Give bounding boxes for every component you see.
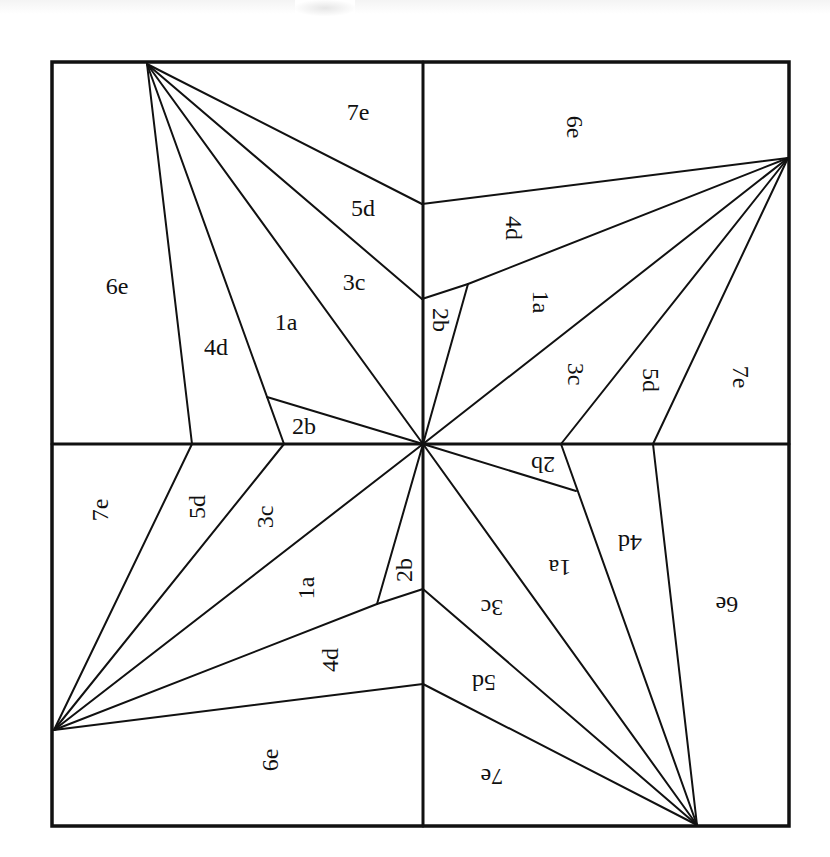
bottom-left-3c-1a-seam xyxy=(54,444,423,730)
piece-label-2b: 2b xyxy=(391,558,417,582)
piece-label-7e: 7e xyxy=(347,99,370,125)
piece-label-3c: 3c xyxy=(481,595,504,621)
piece-label-2b: 2b xyxy=(428,308,454,332)
top-right-6e-4d-seam xyxy=(422,158,788,204)
piece-label-1a: 1a xyxy=(275,309,298,335)
piece-label-3c: 3c xyxy=(563,363,589,386)
piece-label-6e: 6e xyxy=(106,273,129,299)
piece-label-5d: 5d xyxy=(351,195,375,221)
top-left-5d-3c-seam xyxy=(147,64,422,299)
bottom-right-1a-4d-seam xyxy=(561,444,697,825)
piece-label-7e: 7e xyxy=(87,499,113,522)
bottom-left-5d-3c-seam xyxy=(54,444,284,730)
quilt-block-diagram: 7e5d3c1a4d6e2b6e4d1a2b3c5d7e7e5d3c1a2b4d… xyxy=(0,0,830,857)
piece-label-6e: 6e xyxy=(257,749,283,772)
block-midlines xyxy=(52,62,789,826)
bottom-right-3c-1a-seam xyxy=(423,444,697,825)
top-left-4d-6e-seam xyxy=(147,64,192,444)
labels-top-right: 6e4d1a2b3c5d7e xyxy=(428,116,754,392)
top-right-4d-2b-seam xyxy=(422,284,468,299)
top-left-1a-4d-seam xyxy=(147,64,284,444)
piece-label-6e: 6e xyxy=(562,116,588,139)
top-right-1a-3c-seam xyxy=(423,158,788,444)
piece-label-3c: 3c xyxy=(343,269,366,295)
piece-label-1a: 1a xyxy=(293,576,319,599)
top-left-3c-1a-seam xyxy=(147,64,423,444)
bottom-right-7e-5d-seam xyxy=(423,684,697,825)
quadrant-top-right xyxy=(422,158,788,444)
piece-label-4d: 4d xyxy=(204,334,228,360)
labels-bottom-right: 2b4d1a3c6e5d7e xyxy=(472,452,738,790)
quadrant-bottom-left xyxy=(54,444,423,730)
quadrant-bottom-right xyxy=(423,444,697,825)
piece-label-5d: 5d xyxy=(638,368,664,392)
piece-label-2b: 2b xyxy=(531,452,555,478)
piece-label-6e: 6e xyxy=(716,592,739,618)
piece-label-4d: 4d xyxy=(317,648,343,672)
bottom-left-4d-6e-seam xyxy=(54,684,423,730)
top-left-2b-seam xyxy=(267,397,423,444)
piece-label-3c: 3c xyxy=(252,506,278,529)
bottom-left-7e-5d-seam xyxy=(54,444,192,730)
piece-label-4d: 4d xyxy=(618,530,642,556)
piece-label-5d: 5d xyxy=(184,495,210,519)
piece-label-1a: 1a xyxy=(528,291,554,314)
labels-top-left: 7e5d3c1a4d6e2b xyxy=(106,99,375,439)
top-right-3c-5d-seam xyxy=(561,158,788,444)
top-left-7e-5d-seam xyxy=(147,64,422,204)
piece-label-7e: 7e xyxy=(481,764,504,790)
bottom-left-4d-2b-seam xyxy=(377,589,423,604)
piece-label-5d: 5d xyxy=(472,670,496,696)
quadrant-top-left xyxy=(147,64,423,444)
labels-bottom-left: 7e5d3c1a2b4d6e xyxy=(87,495,417,771)
bottom-right-4d-6e-seam xyxy=(653,444,697,825)
piece-label-7e: 7e xyxy=(728,366,754,389)
piece-label-1a: 1a xyxy=(548,555,571,581)
piece-label-4d: 4d xyxy=(501,216,527,240)
piece-label-2b: 2b xyxy=(292,413,316,439)
